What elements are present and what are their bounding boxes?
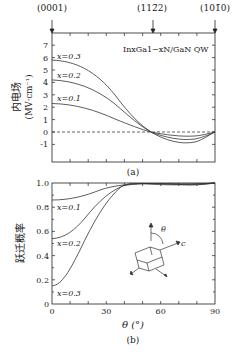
panel-b: 0 0.2 0.4 0.6 0.8 1.0 0 30 60 90 跃迁概率 θ … xyxy=(14,179,220,345)
svg-text:0.2: 0.2 xyxy=(36,276,49,285)
curve-a-x0.2 xyxy=(52,80,215,140)
svg-text:7: 7 xyxy=(43,41,48,50)
top-axis: (0001) (112̄2) (101̄0) xyxy=(37,3,230,33)
svg-text:5: 5 xyxy=(43,66,48,75)
svg-text:90: 90 xyxy=(210,307,220,316)
svg-text:x=0.3: x=0.3 xyxy=(57,289,81,298)
svg-text:x=0.1: x=0.1 xyxy=(57,94,81,103)
svg-text:0.6: 0.6 xyxy=(36,227,49,236)
x-tick-labels-b: 0 30 60 90 xyxy=(49,307,220,316)
svg-text:x=0.2: x=0.2 xyxy=(57,239,81,248)
top-label-0001: (0001) xyxy=(37,3,67,13)
svg-text:0.4: 0.4 xyxy=(36,252,49,261)
svg-text:x=0.3: x=0.3 xyxy=(57,52,81,61)
top-arrows xyxy=(50,20,217,33)
svg-text:x=0.1: x=0.1 xyxy=(57,203,81,212)
svg-text:-1: -1 xyxy=(40,140,48,149)
curves-b xyxy=(52,183,215,286)
inset-c-label: c xyxy=(181,239,186,248)
inset-theta-label: θ xyxy=(161,225,166,234)
svg-text:1: 1 xyxy=(43,116,48,125)
svg-text:4: 4 xyxy=(43,78,48,87)
figure: (0001) (112̄2) (101̄0) -1 0 1 2 3 4 5 xyxy=(0,0,236,356)
panel-a: -1 0 1 2 3 4 5 6 7 内电场 (MV·cm⁻¹) x=0.3 x… xyxy=(10,33,215,177)
svg-text:3: 3 xyxy=(43,91,48,100)
qw-annotation: InxGa1−xN/GaN QW xyxy=(123,45,209,54)
y-tick-labels-a: -1 0 1 2 3 4 5 6 7 xyxy=(40,41,48,149)
panel-a-label: (a) xyxy=(127,167,139,177)
y-axis-label-a-line1: 内电场 xyxy=(10,82,22,112)
y-axis-label-b: 跃迁概率 xyxy=(14,223,26,263)
curve-b-x0.1 xyxy=(52,183,215,200)
y-tick-labels-b: 0 0.2 0.4 0.6 0.8 1.0 xyxy=(36,179,49,309)
svg-text:0.8: 0.8 xyxy=(36,203,49,212)
curve-b-x0.3 xyxy=(52,183,215,286)
panel-b-label: (b) xyxy=(127,335,140,345)
curve-labels-b: x=0.1 x=0.2 x=0.3 xyxy=(57,203,81,298)
svg-text:6: 6 xyxy=(43,54,48,63)
svg-text:1.0: 1.0 xyxy=(36,179,49,188)
top-label-1122: (112̄2) xyxy=(137,3,167,13)
svg-text:2: 2 xyxy=(43,103,48,112)
svg-text:0: 0 xyxy=(49,307,54,316)
inset-crystal-icon xyxy=(130,223,180,277)
svg-text:30: 30 xyxy=(101,307,111,316)
svg-text:x=0.2: x=0.2 xyxy=(57,71,81,80)
curve-labels-a: x=0.3 x=0.2 x=0.1 xyxy=(57,52,81,103)
svg-text:60: 60 xyxy=(156,307,166,316)
y-axis-label-a-line2: (MV·cm⁻¹) xyxy=(24,75,34,120)
svg-text:0: 0 xyxy=(43,128,48,137)
svg-text:0: 0 xyxy=(44,300,49,309)
top-label-1010: (101̄0) xyxy=(200,3,230,13)
x-axis-label-b: θ (°) xyxy=(122,319,144,330)
